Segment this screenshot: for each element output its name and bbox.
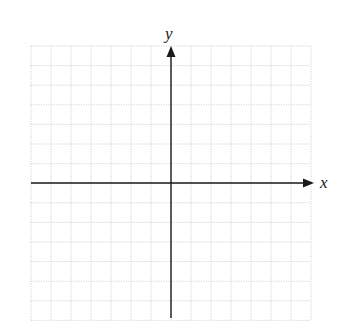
y-axis-arrow-icon (167, 46, 176, 57)
x-axis-label: x (319, 173, 328, 192)
y-axis-label: y (163, 24, 173, 43)
x-axis-arrow-icon (303, 179, 314, 188)
coordinate-plane: x y (0, 0, 340, 330)
